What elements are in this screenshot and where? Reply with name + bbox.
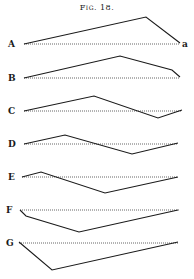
wave-line	[20, 210, 178, 232]
row-g: G	[6, 238, 178, 270]
figure-18-diagram: Fig. 18. A a B C D E F G	[0, 0, 194, 279]
wave-line	[24, 96, 182, 118]
row-label: E	[8, 172, 15, 182]
row-d: D	[8, 135, 178, 154]
wave-line	[19, 242, 178, 270]
row-b: B	[8, 56, 180, 83]
figure-title: Fig. 18.	[80, 3, 115, 12]
row-label: F	[6, 205, 13, 215]
row-label: C	[8, 106, 15, 116]
wave-line	[22, 172, 178, 193]
row-f: F	[6, 205, 180, 232]
wave-line	[24, 17, 180, 44]
wave-line	[24, 56, 180, 78]
row-c: C	[8, 96, 182, 118]
row-label: A	[7, 39, 16, 49]
row-e: E	[8, 172, 178, 193]
row-a: A a	[7, 17, 188, 49]
wave-line	[24, 135, 178, 154]
row-label: B	[8, 73, 16, 83]
row-label: D	[8, 139, 16, 149]
end-label: a	[182, 39, 188, 49]
row-label: G	[6, 238, 14, 248]
